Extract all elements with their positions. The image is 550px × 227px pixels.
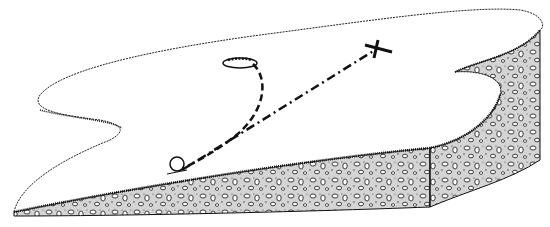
golf-green-illustration bbox=[0, 0, 550, 227]
green-diagram-svg bbox=[0, 0, 550, 227]
golf-ball-icon bbox=[170, 157, 184, 171]
